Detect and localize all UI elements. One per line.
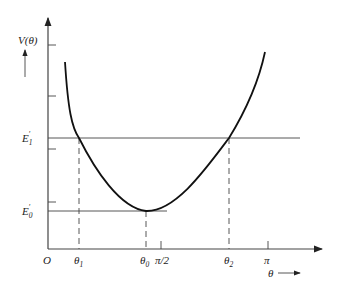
theta1-label: θ1 (74, 254, 83, 269)
e0-label: E0′ (21, 203, 33, 220)
potential-energy-diagram: V(θ) E1′ E0′ O θ1 θ0 π/2 θ2 π θ (0, 0, 338, 291)
potential-curve (65, 52, 265, 211)
pi-half-label: π/2 (155, 254, 170, 266)
y-axis-label: V(θ) (18, 34, 38, 47)
pi-label: π (264, 254, 270, 266)
origin-label: O (43, 254, 51, 266)
theta0-label: θ0 (140, 254, 149, 269)
e1-label: E1′ (21, 130, 32, 147)
y-ticks (48, 45, 56, 202)
x-axis-label: θ (268, 267, 274, 279)
theta2-label: θ2 (224, 254, 233, 269)
